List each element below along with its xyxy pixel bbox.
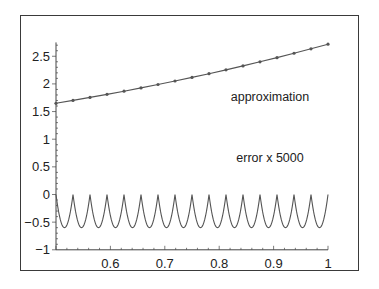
x-tick-label: 0.7 xyxy=(156,256,174,271)
y-tick-label: 0 xyxy=(43,187,50,202)
data-point-marker xyxy=(309,47,312,50)
y-tick-label: 2.5 xyxy=(32,49,50,64)
axes xyxy=(56,42,328,249)
series-error xyxy=(56,195,328,228)
x-tick-label: 0.8 xyxy=(210,256,228,271)
data-point-marker xyxy=(241,64,244,67)
error-line xyxy=(56,195,328,228)
y-tick-label: 1.5 xyxy=(32,104,50,119)
tick-marks xyxy=(52,45,328,250)
data-point-marker xyxy=(190,76,193,79)
data-point-marker xyxy=(156,83,159,86)
chart-canvas: 2.521.510.50−0.5−10.60.70.80.91 approxim… xyxy=(0,0,379,289)
y-tick-label: −1 xyxy=(35,242,50,257)
x-tick-label: 1 xyxy=(324,256,331,271)
data-point-marker xyxy=(88,96,91,99)
data-point-marker xyxy=(275,56,278,59)
y-tick-label: −0.5 xyxy=(24,215,50,230)
data-point-marker xyxy=(292,52,295,55)
data-point-marker xyxy=(105,93,108,96)
annotation-approximation: approximation xyxy=(231,90,310,104)
data-point-marker xyxy=(71,99,74,102)
data-point-marker xyxy=(122,90,125,93)
x-tick-label: 0.6 xyxy=(101,256,119,271)
data-point-marker xyxy=(224,68,227,71)
data-point-marker xyxy=(54,102,57,105)
data-point-marker xyxy=(258,60,261,63)
y-tick-label: 0.5 xyxy=(32,159,50,174)
x-tick-label: 0.9 xyxy=(265,256,283,271)
data-point-marker xyxy=(173,79,176,82)
y-tick-label: 1 xyxy=(43,132,50,147)
data-point-marker xyxy=(326,43,329,46)
data-point-marker xyxy=(207,72,210,75)
y-tick-label: 2 xyxy=(43,76,50,91)
annotation-error: error x 5000 xyxy=(236,151,303,165)
data-point-marker xyxy=(139,86,142,89)
